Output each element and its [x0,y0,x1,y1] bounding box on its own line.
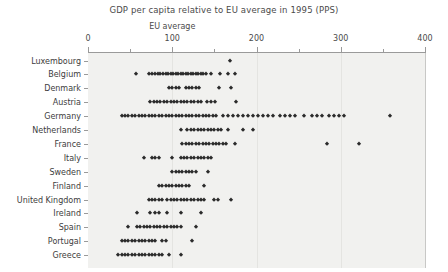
category-tick-1 [84,74,88,75]
category-label-portugal: Portugal [48,237,81,246]
category-tick-3 [84,102,88,103]
x-minor-tick-50 [130,49,131,52]
category-label-denmark: Denmark [44,84,81,93]
x-tick-label-100: 100 [165,34,180,43]
x-minor-tick-250 [299,49,300,52]
category-label-united-kingdom: United Kingdom [17,195,81,204]
category-label-sweden: Sweden [49,167,81,176]
category-label-belgium: Belgium [48,70,81,79]
x-tick-100 [172,47,173,52]
category-tick-10 [84,200,88,201]
category-tick-4 [84,116,88,117]
x-tick-200 [257,47,258,52]
x-minor-tick-150 [214,49,215,52]
category-label-finland: Finland [52,181,81,190]
x-axis-line [88,52,426,53]
category-label-ireland: Ireland [53,209,81,218]
category-label-greece: Greece [53,251,81,260]
category-label-spain: Spain [59,223,81,232]
category-tick-6 [84,144,88,145]
x-tick-label-0: 0 [85,34,90,43]
category-label-austria: Austria [53,98,81,107]
x-tick-300 [341,47,342,52]
x-tick-label-400: 400 [417,34,432,43]
category-tick-8 [84,172,88,173]
category-label-luxembourg: Luxembourg [31,56,81,65]
category-label-germany: Germany [44,112,81,121]
category-tick-9 [84,186,88,187]
category-tick-13 [84,241,88,242]
category-tick-7 [84,158,88,159]
category-tick-11 [84,213,88,214]
category-label-france: France [54,139,81,148]
category-tick-0 [84,61,88,62]
x-tick-label-300: 300 [333,34,348,43]
x-tick-0 [88,47,89,52]
eu-average-annotation: EU average [149,22,195,31]
x-tick-400 [425,47,426,52]
category-label-italy: Italy [64,153,81,162]
category-tick-14 [84,255,88,256]
category-tick-12 [84,227,88,228]
category-label-netherlands: Netherlands [32,126,81,135]
category-tick-5 [84,130,88,131]
x-tick-label-200: 200 [249,34,264,43]
chart-container: GDP per capita relative to EU average in… [0,0,448,272]
category-tick-2 [84,88,88,89]
x-minor-tick-350 [383,49,384,52]
